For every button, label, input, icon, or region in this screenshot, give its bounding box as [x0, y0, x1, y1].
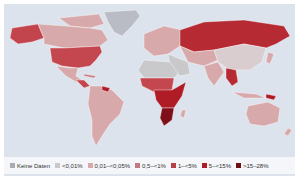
legend-label: <0,01%	[62, 163, 83, 169]
legend-label: 5–<15%	[209, 163, 231, 169]
world-map	[4, 4, 295, 154]
legend-swatch	[10, 163, 15, 168]
legend-item-15-28: >15–28%	[236, 163, 269, 169]
region-central-america[interactable]	[76, 80, 90, 88]
region-papua-new-guinea[interactable]	[266, 94, 276, 100]
map-frame: Keine Daten <0,01% 0,01–<0,05% 0,5–<1% 1…	[4, 4, 295, 176]
region-south-america[interactable]	[88, 86, 124, 146]
legend-swatch	[88, 163, 93, 168]
map-legend: Keine Daten <0,01% 0,01–<0,05% 0,5–<1% 1…	[4, 157, 295, 174]
legend-swatch	[55, 163, 60, 168]
region-japan[interactable]	[266, 52, 274, 64]
legend-swatch	[135, 163, 140, 168]
region-alaska[interactable]	[10, 24, 44, 44]
region-usa[interactable]	[50, 46, 102, 68]
legend-label: 1–<5%	[178, 163, 197, 169]
legend-label: >15–28%	[243, 163, 269, 169]
region-southeast-asia[interactable]	[226, 68, 238, 86]
legend-item-5-15: 5–<15%	[202, 163, 231, 169]
legend-swatch	[236, 163, 241, 168]
region-indonesia[interactable]	[232, 92, 266, 98]
legend-item-0-01-0-05: 0,01–<0,05%	[88, 163, 131, 169]
region-europe[interactable]	[144, 26, 182, 56]
legend-label: Keine Daten	[17, 163, 50, 169]
legend-item-no-data: Keine Daten	[10, 163, 50, 169]
region-southern-africa[interactable]	[160, 108, 174, 126]
legend-item-lt-0-01: <0,01%	[55, 163, 83, 169]
region-mexico[interactable]	[56, 66, 82, 82]
legend-swatch	[171, 163, 176, 168]
region-new-zealand[interactable]	[284, 128, 292, 136]
region-canada[interactable]	[38, 24, 108, 48]
region-australia[interactable]	[246, 102, 280, 126]
region-greenland[interactable]	[104, 10, 140, 36]
legend-label: 0,01–<0,05%	[95, 163, 131, 169]
region-caribbean[interactable]	[84, 74, 96, 78]
legend-label: 0,5–<1%	[142, 163, 166, 169]
region-india[interactable]	[204, 62, 224, 86]
legend-item-1-5: 1–<5%	[171, 163, 197, 169]
legend-swatch	[202, 163, 207, 168]
legend-item-0-5-1: 0,5–<1%	[135, 163, 166, 169]
region-madagascar[interactable]	[180, 110, 186, 118]
